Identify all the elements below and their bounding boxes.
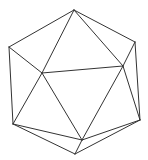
- edge-inner_left-inner_right: [42, 66, 123, 73]
- edge-upper_right-inner_right: [123, 42, 135, 66]
- edge-top-inner_right: [74, 10, 123, 66]
- edge-inner_left-inner_bottom: [42, 73, 82, 140]
- edge-lower_left-bottom: [13, 124, 75, 154]
- edge-top-upper_right: [74, 10, 135, 42]
- edge-inner_left-lower_left: [13, 73, 42, 124]
- edge-lower_right-inner_bottom: [82, 120, 140, 140]
- icosahedron-diagram: [0, 0, 148, 160]
- edge-upper_left-inner_left: [9, 47, 42, 73]
- edge-upper_right-lower_right: [135, 42, 140, 120]
- edge-upper_left-lower_left: [9, 47, 13, 124]
- edge-lower_right-bottom: [75, 120, 140, 154]
- edge-inner_right-inner_bottom: [82, 66, 123, 140]
- edge-lower_left-inner_bottom: [13, 124, 82, 140]
